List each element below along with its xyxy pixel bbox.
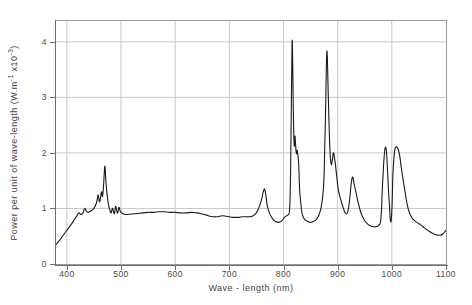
y-tick-4: [50, 42, 55, 43]
x-tick-label-400: 400: [59, 269, 74, 279]
y-tick-2: [50, 153, 55, 154]
y-axis-unit-exponent-1: -1: [7, 74, 14, 81]
y-tick-0: [50, 264, 55, 265]
x-tick-label-900: 900: [330, 269, 345, 279]
spectrum-line: [56, 40, 446, 244]
plot-area: [55, 20, 447, 265]
x-tick-label-1100: 1100: [436, 269, 456, 279]
x-axis-title: Wave - length (nm): [55, 283, 447, 293]
x-axis-spine: [55, 265, 448, 266]
spectrum-curve: [56, 21, 446, 264]
y-axis-unit-exponent-2: -3: [7, 48, 14, 55]
y-axis-spine: [55, 20, 56, 266]
y-axis-unit-mid: x10: [9, 55, 19, 74]
x-tick-label-700: 700: [222, 269, 237, 279]
x-tick-label-600: 600: [167, 269, 182, 279]
y-axis-title: Power per unit of wave-length (W.m-1 x10…: [7, 45, 19, 241]
spectral-power-chart: 01234 Power per unit of wave-length (W.m…: [0, 0, 472, 305]
x-tick-label-800: 800: [276, 269, 291, 279]
y-axis-unit-close: ): [9, 45, 19, 49]
y-axis-title-wrapper: Power per unit of wave-length (W.m-1 x10…: [0, 0, 26, 285]
y-tick-3: [50, 97, 55, 98]
x-tick-label-500: 500: [113, 269, 128, 279]
x-tick-label-1000: 1000: [382, 269, 403, 279]
y-tick-1: [50, 208, 55, 209]
y-axis-title-text: Power per unit of wave-length (W.m: [9, 81, 19, 241]
